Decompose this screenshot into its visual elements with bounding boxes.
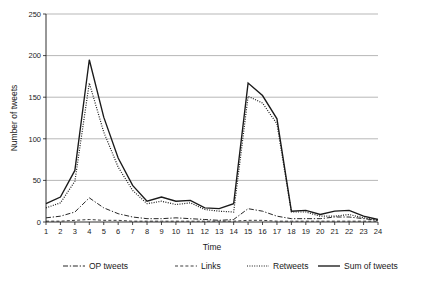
x-tick-label: 8 [145, 227, 149, 236]
x-tick-label: 13 [215, 227, 223, 236]
legend-label-links: Links [201, 261, 221, 271]
legend-label-op-tweets: OP tweets [89, 261, 128, 271]
x-tick-label: 11 [186, 227, 194, 236]
x-tick-label: 19 [302, 227, 310, 236]
x-tick-label: 20 [316, 227, 324, 236]
x-tick-label: 12 [201, 227, 209, 236]
chart-container: 050100150200250 123456789101112131415161… [0, 0, 422, 287]
x-axis: 123456789101112131415161718192021222324 [44, 222, 382, 236]
x-tick-label: 15 [244, 227, 252, 236]
gridlines [46, 14, 378, 222]
x-tick-label: 7 [131, 227, 135, 236]
x-tick-label: 10 [172, 227, 180, 236]
x-tick-label: 1 [44, 227, 48, 236]
x-tick-label: 24 [374, 227, 382, 236]
x-tick-label: 9 [159, 227, 163, 236]
x-tick-label: 23 [359, 227, 367, 236]
y-axis: 050100150200250 [28, 10, 46, 227]
data-series [46, 60, 378, 221]
y-tick-label: 50 [33, 176, 41, 185]
line-chart: 050100150200250 123456789101112131415161… [0, 0, 422, 287]
y-tick-label: 0 [37, 218, 41, 227]
x-tick-label: 4 [87, 227, 91, 236]
y-tick-label: 250 [28, 10, 41, 19]
series-line-retweets [46, 83, 378, 220]
x-tick-label: 6 [116, 227, 120, 236]
legend-label-retweets: Retweets [273, 261, 308, 271]
legend-label-sum-of-tweets: Sum of tweets [344, 261, 398, 271]
x-tick-label: 17 [273, 227, 281, 236]
chart-legend: OP tweetsLinksRetweetsSum of tweets [63, 261, 398, 271]
x-tick-label: 22 [345, 227, 353, 236]
y-tick-label: 150 [28, 93, 41, 102]
x-tick-label: 14 [229, 227, 237, 236]
series-line-op-tweets [46, 198, 378, 220]
series-line-links [46, 220, 378, 222]
x-tick-label: 16 [258, 227, 266, 236]
x-tick-label: 2 [58, 227, 62, 236]
series-line-sum-of-tweets [46, 60, 378, 220]
y-tick-label: 100 [28, 135, 41, 144]
y-tick-label: 200 [28, 51, 41, 60]
y-axis-title: Number of tweets [9, 85, 19, 152]
x-axis-title: Time [203, 242, 222, 252]
x-tick-label: 3 [73, 227, 77, 236]
x-tick-label: 21 [331, 227, 339, 236]
x-tick-label: 18 [287, 227, 295, 236]
x-tick-label: 5 [102, 227, 106, 236]
